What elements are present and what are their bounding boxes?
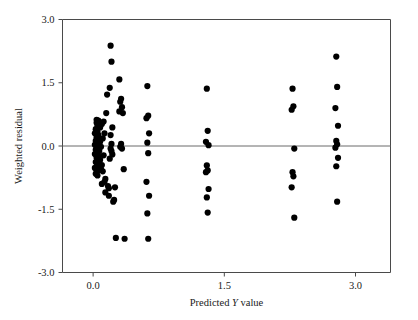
y-tick-label: 1.5 — [41, 77, 54, 88]
y-tick-label: -3.0 — [38, 267, 55, 278]
data-point — [291, 215, 297, 221]
data-point — [94, 172, 100, 178]
y-axis-title-text: Weighted residual — [13, 108, 24, 184]
data-point — [290, 173, 296, 179]
residual-scatter-chart: 0.01.53.0 -3.0-1.50.01.53.0 Predicted Y … — [0, 0, 418, 320]
data-point — [108, 132, 114, 138]
data-point — [99, 162, 105, 168]
data-point — [335, 155, 341, 161]
data-point — [103, 110, 109, 116]
data-point — [332, 145, 338, 151]
data-point — [116, 76, 122, 82]
data-point — [289, 107, 295, 113]
scatter-plot-figure: 0.01.53.0 -3.0-1.50.01.53.0 Predicted Y … — [0, 0, 418, 320]
x-tick-label: 1.5 — [218, 280, 231, 291]
data-point — [122, 236, 128, 242]
data-point — [111, 197, 117, 203]
x-axis-title: Predicted Y value — [190, 297, 264, 308]
x-axis-title-text: Predicted Y value — [190, 297, 264, 308]
data-point — [109, 124, 115, 130]
data-point — [289, 86, 295, 92]
data-point — [107, 85, 113, 91]
y-tick-label: -1.5 — [38, 204, 55, 215]
data-point — [146, 193, 152, 199]
data-point — [121, 166, 127, 172]
data-point — [289, 184, 295, 190]
x-tick-label: 0.0 — [87, 280, 100, 291]
data-point — [144, 210, 150, 216]
data-point — [145, 150, 151, 156]
data-point — [99, 181, 105, 187]
data-point — [145, 236, 151, 242]
data-point — [205, 128, 211, 134]
data-point — [108, 141, 114, 147]
data-point — [106, 193, 112, 199]
data-point — [109, 151, 115, 157]
y-axis-ticks: -3.0-1.50.01.53.0 — [38, 14, 63, 278]
data-point — [333, 54, 339, 60]
data-point — [112, 184, 118, 190]
data-point — [205, 186, 211, 192]
data-point — [101, 118, 107, 124]
data-point — [203, 169, 209, 175]
data-point — [334, 199, 340, 205]
data-point — [205, 210, 211, 216]
data-point — [120, 110, 126, 116]
data-point — [143, 179, 149, 185]
data-point — [291, 145, 297, 151]
y-tick-label: 0.0 — [41, 141, 54, 152]
data-point — [143, 115, 149, 121]
data-point — [108, 59, 114, 65]
data-point — [113, 235, 119, 241]
data-point — [205, 142, 211, 148]
data-point — [146, 130, 152, 136]
data-point — [104, 91, 110, 97]
data-point — [332, 105, 338, 111]
data-point — [144, 140, 150, 146]
data-point — [204, 86, 210, 92]
x-tick-label: 3.0 — [349, 280, 362, 291]
y-axis-title: Weighted residual — [13, 108, 24, 184]
data-point — [335, 123, 341, 129]
data-point — [204, 194, 210, 200]
data-point — [100, 168, 106, 174]
data-points — [92, 43, 341, 242]
data-point — [101, 152, 107, 158]
data-point — [119, 145, 125, 151]
y-tick-label: 3.0 — [41, 14, 54, 25]
x-axis-ticks: 0.01.53.0 — [87, 273, 363, 291]
data-point — [117, 99, 123, 105]
data-point — [333, 163, 339, 169]
data-point — [101, 130, 107, 136]
data-point — [108, 43, 114, 49]
data-point — [144, 83, 150, 89]
data-point — [106, 185, 112, 191]
data-point — [334, 84, 340, 90]
